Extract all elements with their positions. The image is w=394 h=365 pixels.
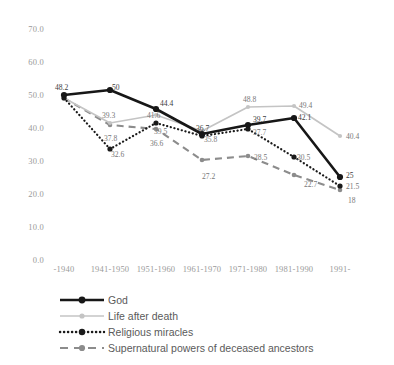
legend-key-life-line — [58, 309, 106, 323]
data-label-miracles-1951-1960: 39.5 — [154, 127, 167, 136]
legend-key-miracles-line — [58, 325, 106, 339]
legend-key-god-line — [58, 293, 106, 307]
data-label-god-1991: 25 — [346, 171, 354, 180]
data-label-miracles-1981-1990: 30.5 — [297, 153, 310, 162]
legend-item-religious-miracles[interactable]: Religious miracles — [58, 324, 388, 340]
line-chart: 70.0 60.0 50.0 40.0 30.0 20.0 10.0 0.0 — [0, 0, 394, 365]
data-label-god-1971-1980: 39.7 — [253, 115, 266, 124]
data-label-god-1951-1960: 44.4 — [160, 99, 173, 108]
data-label-god-1941-1950: 50 — [112, 83, 120, 92]
data-label-ancestors-1951-1960: 36.6 — [150, 139, 163, 148]
data-label-life-1941-1950: 39.3 — [102, 111, 115, 120]
data-label-ancestors-1961-1970: 27.2 — [202, 172, 215, 181]
data-label-ancestors-1941-1950: 37.8 — [104, 134, 117, 143]
data-label-life-1951-1960: 41.6 — [147, 111, 160, 120]
data-label-god-1981-1990: 42.1 — [298, 113, 311, 122]
legend-label-life-after-death: Life after death — [108, 310, 178, 322]
legend-item-god[interactable]: God — [58, 292, 388, 308]
data-label-miracles-1961-1970: 35.8 — [204, 135, 217, 144]
legend-item-life-after-death[interactable]: Life after death — [58, 308, 388, 324]
data-label-ancestors-1971-1980: 28.5 — [254, 153, 267, 162]
data-label-life-1971-1980: 48.8 — [243, 95, 256, 104]
legend-label-religious-miracles: Religious miracles — [108, 326, 193, 338]
legend-label-supernatural-powers: Supernatural powers of deceased ancestor… — [108, 342, 313, 354]
data-label-miracles-1941-1950: 32.6 — [111, 150, 124, 159]
data-label-ancestors-1991: 18 — [348, 196, 356, 205]
data-label-life-1981-1990: 49.4 — [299, 101, 312, 110]
data-label-ancestors-1981-1990: 22.7 — [304, 180, 317, 189]
x-axis-tick-5: 1981-1990 — [266, 264, 322, 274]
legend-key-ancestors-line — [58, 341, 106, 355]
chart-legend: God Life after death Religious miracles — [58, 292, 388, 356]
data-label-miracles-1991: 21.5 — [346, 182, 359, 191]
data-label-god-1961-1970: 36.7 — [196, 124, 209, 133]
data-label-life-1991: 40.4 — [346, 132, 359, 141]
data-label-god-1940: 48.2 — [55, 83, 68, 92]
data-label-miracles-1971-1980: 37.7 — [253, 128, 266, 137]
x-axis-tick-6: 1991- — [316, 264, 364, 274]
legend-item-supernatural-powers[interactable]: Supernatural powers of deceased ancestor… — [58, 340, 388, 356]
legend-label-god: God — [108, 294, 128, 306]
